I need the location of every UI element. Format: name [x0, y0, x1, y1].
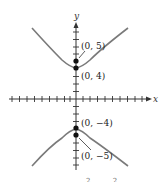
focus-point-upper: [73, 58, 78, 63]
caption-fragment: 2 2: [86, 177, 117, 182]
point-label-0-4: (0, 4): [81, 71, 105, 81]
lower-branch-curve: [32, 129, 128, 166]
vertex-point-upper: [73, 65, 78, 70]
y-axis-label: y: [73, 11, 80, 21]
vertex-point-lower: [73, 125, 78, 130]
point-label-0-neg4: (0, −4): [81, 118, 113, 128]
leader-line-focus-upper: [79, 51, 85, 58]
upper-branch-curve: [32, 28, 128, 68]
x-axis: x: [9, 94, 158, 104]
point-label-0-neg5: (0, −5): [81, 151, 113, 161]
hyperbola-graph: x y (0, 5) (0, 4) (0, −4) (: [0, 0, 160, 182]
leader-line-focus-lower: [79, 138, 91, 150]
y-axis-arrow-icon: [74, 22, 79, 28]
x-axis-label: x: [153, 94, 158, 104]
focus-point-lower: [73, 132, 78, 137]
point-label-0-5: (0, 5): [81, 41, 105, 51]
y-axis: y: [73, 11, 80, 170]
x-axis-arrow-icon: [146, 97, 152, 102]
